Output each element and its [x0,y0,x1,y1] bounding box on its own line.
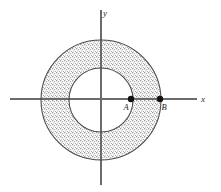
x-axis-label: x [200,94,205,104]
point-b-label: B [161,102,166,112]
figure-container: A B x y [0,0,221,192]
point-a-label: A [122,102,129,112]
y-axis-label: y [102,8,107,18]
point-a-marker [128,96,134,102]
annulus-diagram-svg: A B x y [0,0,221,192]
annulus-shaded-region [0,0,221,192]
